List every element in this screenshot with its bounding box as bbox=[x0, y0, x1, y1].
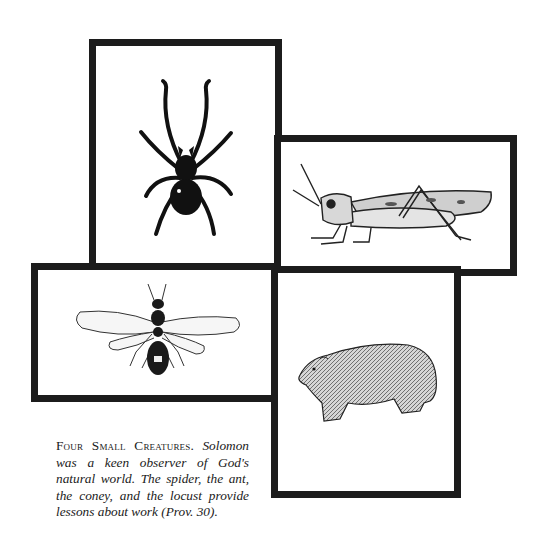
locust-illustration bbox=[281, 142, 510, 269]
caption-title: Four Small Creatures. bbox=[56, 438, 194, 453]
coney-illustration bbox=[278, 273, 454, 491]
ant-illustration bbox=[38, 270, 272, 395]
spider-illustration bbox=[96, 46, 275, 266]
figure-caption: Four Small Creatures. Solomon was a keen… bbox=[56, 438, 249, 521]
coney-panel bbox=[271, 266, 461, 498]
ant-panel bbox=[31, 263, 279, 402]
locust-panel bbox=[274, 135, 517, 276]
spider-panel bbox=[89, 39, 282, 273]
